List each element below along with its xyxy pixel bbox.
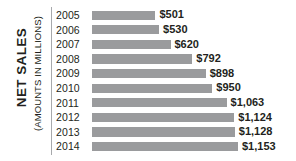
bar-2008: [92, 54, 192, 63]
chart-row: 2009$898: [52, 66, 296, 81]
chart-row: 2011$1,063: [52, 96, 296, 111]
chart-row: 2005$501: [52, 8, 296, 23]
bar-2009: [92, 69, 206, 78]
chart-row: 2010$950: [52, 81, 296, 96]
bar-2011: [92, 98, 227, 107]
bar-area: $950: [89, 81, 296, 96]
bar-2014: [92, 142, 238, 151]
chart-row: 2014$1,153: [52, 139, 296, 154]
chart-row: 2013$1,128: [52, 125, 296, 140]
bar-value-label-2011: $1,063: [231, 97, 265, 108]
category-label-2011: 2011: [52, 98, 89, 109]
category-label-2013: 2013: [52, 127, 89, 138]
category-label-2009: 2009: [52, 68, 89, 79]
bar-area: $1,063: [89, 96, 296, 111]
bar-area: $620: [89, 37, 296, 52]
bar-value-label-2010: $950: [216, 82, 240, 93]
y-axis-subtitle: (AMOUNTS IN MILLIONS): [32, 0, 43, 154]
category-label-2010: 2010: [52, 83, 89, 94]
bar-value-label-2008: $792: [196, 53, 220, 64]
bar-value-label-2007: $620: [175, 39, 199, 50]
category-label-2014: 2014: [52, 141, 89, 152]
bar-area: $898: [89, 66, 296, 81]
bar-2006: [92, 25, 159, 34]
net-sales-bar-chart: NET SALES (AMOUNTS IN MILLIONS) 2005$501…: [0, 0, 296, 161]
bar-area: $1,128: [89, 125, 296, 140]
chart-row: 2012$1,124: [52, 110, 296, 125]
bar-2005: [92, 11, 155, 20]
chart-row: 2006$530: [52, 23, 296, 38]
bar-area: $792: [89, 52, 296, 67]
y-axis-title-group: NET SALES (AMOUNTS IN MILLIONS): [0, 0, 52, 161]
bar-area: $1,124: [89, 110, 296, 125]
y-axis-title: NET SALES: [14, 6, 29, 130]
chart-row: 2008$792: [52, 52, 296, 67]
bar-2013: [92, 127, 235, 136]
bar-value-label-2014: $1,153: [242, 141, 276, 152]
bar-area: $1,153: [89, 139, 296, 154]
bar-value-label-2012: $1,124: [238, 112, 272, 123]
category-label-2005: 2005: [52, 10, 89, 21]
category-label-2012: 2012: [52, 112, 89, 123]
bar-2007: [92, 40, 171, 49]
chart-rows: 2005$5012006$5302007$6202008$7922009$898…: [52, 8, 296, 155]
bar-area: $530: [89, 23, 296, 38]
bar-2012: [92, 113, 234, 122]
bar-value-label-2005: $501: [159, 9, 183, 20]
category-label-2008: 2008: [52, 54, 89, 65]
bar-value-label-2013: $1,128: [239, 126, 273, 137]
bar-2010: [92, 84, 212, 93]
bar-area: $501: [89, 8, 296, 23]
bar-value-label-2006: $530: [163, 24, 187, 35]
category-label-2007: 2007: [52, 39, 89, 50]
bar-value-label-2009: $898: [210, 68, 234, 79]
chart-row: 2007$620: [52, 37, 296, 52]
category-label-2006: 2006: [52, 25, 89, 36]
